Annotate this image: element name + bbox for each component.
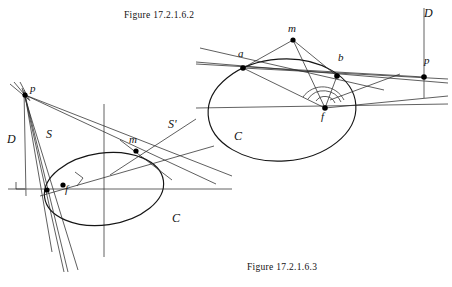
label-left-S: S [46, 127, 52, 142]
label-left-S-prime: S' [168, 117, 177, 132]
line-a-through-f-extended [200, 48, 384, 90]
label-right-f: f [321, 110, 324, 122]
left-figure-group [8, 82, 232, 272]
figure-caption-bottom: Figure 17.2.1.6.3 [247, 262, 317, 272]
point-p-left [22, 92, 27, 97]
label-left-m: m [129, 133, 137, 145]
right-conic-C [205, 54, 360, 166]
label-right-D: D [424, 6, 433, 21]
label-right-m: m [288, 22, 296, 34]
point-m-left [133, 148, 138, 153]
figure-page: Figure 17.2.1.6.2 Figure 17.2.1.6.3 p D … [0, 0, 452, 287]
figure-drawing [0, 0, 452, 287]
line-p-through-f [22, 88, 78, 270]
label-right-b: b [338, 51, 344, 63]
label-left-f: f [65, 183, 68, 195]
angle-arc-small-at-f [316, 96, 335, 103]
label-right-p: p [424, 54, 430, 66]
label-right-C: C [234, 129, 242, 144]
label-left-C: C [172, 211, 180, 226]
label-left-p: p [30, 82, 36, 94]
left-directrix-D [24, 90, 26, 196]
point-conic-left [44, 187, 49, 192]
point-m-right [290, 37, 295, 42]
point-b-right [334, 73, 340, 79]
line-p-through-m [25, 95, 216, 184]
segment-S-prime-line [110, 119, 196, 175]
label-left-D: D [7, 132, 16, 147]
tangent-at-b-to-p [243, 68, 448, 79]
label-right-a: a [238, 47, 244, 59]
right-horizontal-axis [196, 104, 448, 108]
figure-caption-top: Figure 17.2.1.6.2 [124, 10, 194, 20]
segment-f-to-p [325, 96, 448, 108]
secant-lower-right [330, 74, 400, 100]
line-p-chord-left [24, 92, 64, 272]
point-p-right [421, 74, 427, 80]
right-angle-mark-directrix [16, 182, 25, 189]
point-a-right [240, 65, 246, 71]
